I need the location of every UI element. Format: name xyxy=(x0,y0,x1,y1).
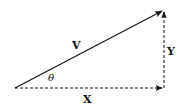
angle-theta-label: θ xyxy=(48,72,54,83)
vector-v-arrow xyxy=(15,11,162,88)
vector-diagram: V X Y θ xyxy=(0,0,183,108)
y-component-label: Y xyxy=(166,45,175,58)
vector-v-label: V xyxy=(71,39,81,52)
x-component-label: X xyxy=(83,93,92,106)
